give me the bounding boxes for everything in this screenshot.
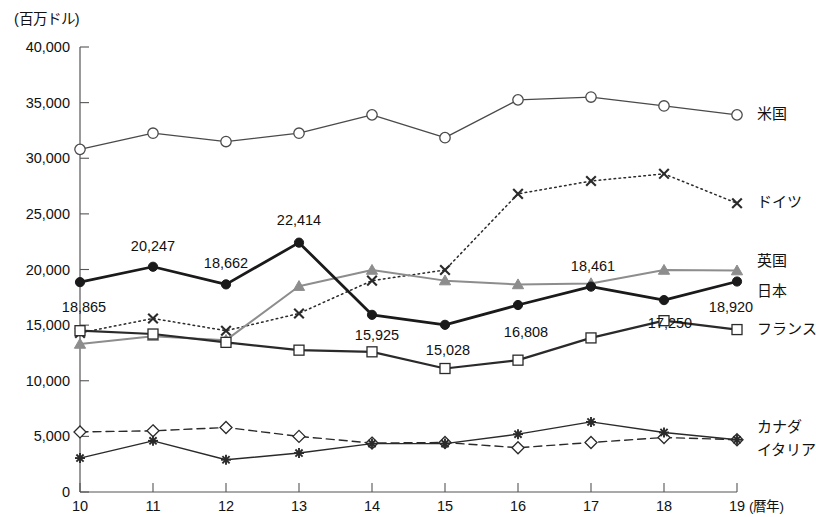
y-tick-label: 5,000: [34, 428, 70, 444]
japan-value-label: 15,925: [355, 327, 399, 343]
legend-text-germany: ドイツ: [757, 193, 802, 210]
legend-label-germany: ドイツ: [757, 193, 802, 210]
japan-value-label: 18,662: [204, 255, 248, 271]
y-tick-label: 10,000: [26, 373, 70, 389]
line-chart-figure: (百万ドル) 05,00010,00015,00020,00025,00030,…: [0, 0, 816, 517]
data-point-marker-filled-circle: [294, 238, 303, 247]
data-point-marker-open-diamond: [147, 425, 159, 437]
data-point-marker-cross-x: [732, 199, 742, 209]
series-line-germany: [80, 174, 737, 333]
series-line-japan: [80, 243, 737, 325]
chart-series-group: [74, 92, 743, 465]
x-tick-label: 18: [656, 498, 672, 514]
legend-text-italy: イタリア: [757, 441, 816, 458]
series-germany: [75, 169, 742, 338]
japan-value-label: 17,250: [648, 315, 692, 331]
japan-value-label: 15,028: [426, 342, 470, 358]
data-point-marker-open-diamond: [293, 430, 305, 442]
data-point-marker-open-square: [732, 325, 742, 335]
y-tick-label: 25,000: [26, 206, 70, 222]
y-tick-label: 15,000: [26, 317, 70, 333]
y-axis-unit-label: (百万ドル): [14, 11, 80, 27]
japan-value-label: 22,414: [277, 212, 321, 228]
x-axis-note: (暦年): [749, 499, 784, 514]
x-axis-note-group: (暦年): [749, 499, 784, 514]
y-tick-label: 35,000: [26, 95, 70, 111]
x-tick-label: 16: [510, 498, 526, 514]
data-point-marker-star: [294, 448, 304, 458]
japan-value-label: 18,461: [571, 258, 615, 274]
y-tick-label: 0: [62, 484, 70, 500]
series-line-canada: [80, 427, 737, 447]
legend-label-usa: 米国: [757, 105, 787, 122]
legend-label-japan: 日本: [757, 282, 787, 299]
japan-value-label: 16,808: [504, 324, 548, 340]
data-point-marker-filled-circle: [440, 320, 449, 329]
data-point-marker-open-square: [586, 333, 596, 343]
data-point-marker-filled-circle: [732, 277, 741, 286]
data-point-marker-open-square: [221, 337, 231, 347]
data-point-marker-filled-circle: [367, 310, 376, 319]
chart-canvas: (百万ドル) 05,00010,00015,00020,00025,00030,…: [0, 0, 816, 517]
data-point-marker-cross-x: [294, 309, 304, 319]
legend-label-canada: カナダ: [757, 418, 802, 435]
data-point-marker-star: [659, 427, 669, 437]
data-point-marker-open-circle: [513, 95, 523, 105]
x-tick-label: 12: [218, 498, 234, 514]
data-point-marker-open-circle: [732, 110, 742, 120]
data-point-marker-filled-circle: [659, 295, 668, 304]
x-tick-label: 19: [729, 498, 745, 514]
series-line-france: [80, 321, 737, 369]
data-point-marker-open-diamond: [585, 436, 597, 448]
legend-label-france: フランス: [757, 320, 816, 337]
series-line-usa: [80, 97, 737, 149]
japan-value-label: 18,865: [62, 299, 106, 315]
data-point-marker-open-square: [513, 355, 523, 365]
data-point-marker-filled-circle: [221, 280, 230, 289]
data-point-marker-star: [221, 455, 231, 465]
y-tick-label: 40,000: [26, 39, 70, 55]
data-point-marker-star: [732, 435, 742, 445]
data-point-marker-open-diamond: [220, 421, 232, 433]
legend-text-uk: 英国: [757, 252, 787, 269]
japan-value-label: 20,247: [131, 238, 175, 254]
data-point-marker-open-circle: [148, 128, 158, 138]
series-line-italy: [80, 422, 737, 460]
x-tick-label: 11: [145, 498, 160, 514]
data-point-marker-filled-circle: [586, 282, 595, 291]
data-point-marker-open-circle: [367, 110, 377, 120]
data-point-marker-open-square: [294, 345, 304, 355]
series-italy: [75, 417, 742, 465]
data-point-marker-star: [586, 417, 596, 427]
series-line-uk: [80, 270, 737, 344]
x-tick-label: 14: [364, 498, 380, 514]
x-tick-label: 13: [291, 498, 307, 514]
data-point-marker-filled-circle: [148, 262, 157, 271]
data-point-marker-open-circle: [221, 136, 231, 146]
data-point-marker-open-circle: [294, 128, 304, 138]
data-point-marker-star: [148, 436, 158, 446]
series-japan: [75, 238, 741, 329]
data-point-marker-star: [513, 429, 523, 439]
data-point-marker-star: [367, 439, 377, 449]
data-point-marker-open-square: [440, 364, 450, 374]
data-point-marker-open-circle: [75, 144, 85, 154]
series-name-labels: 米国ドイツ英国日本フランスカナダイタリア: [757, 105, 816, 458]
data-point-marker-star: [75, 453, 85, 463]
y-tick-label: 20,000: [26, 262, 70, 278]
data-point-marker-open-circle: [440, 132, 450, 142]
data-point-marker-open-square: [367, 347, 377, 357]
x-tick-label: 17: [583, 498, 599, 514]
y-axis-unit-label-group: (百万ドル): [14, 11, 80, 27]
data-point-marker-open-circle: [586, 92, 596, 102]
legend-text-france: フランス: [757, 320, 816, 337]
data-point-marker-filled-triangle: [366, 264, 377, 274]
legend-text-canada: カナダ: [757, 418, 802, 435]
x-axis-ticks: 10111213141516171819: [72, 483, 745, 514]
data-point-marker-star: [440, 439, 450, 449]
data-point-marker-filled-circle: [513, 300, 522, 309]
data-point-marker-open-diamond: [512, 442, 524, 454]
x-tick-label: 10: [72, 498, 88, 514]
legend-text-japan: 日本: [757, 282, 787, 299]
legend-label-uk: 英国: [757, 252, 787, 269]
